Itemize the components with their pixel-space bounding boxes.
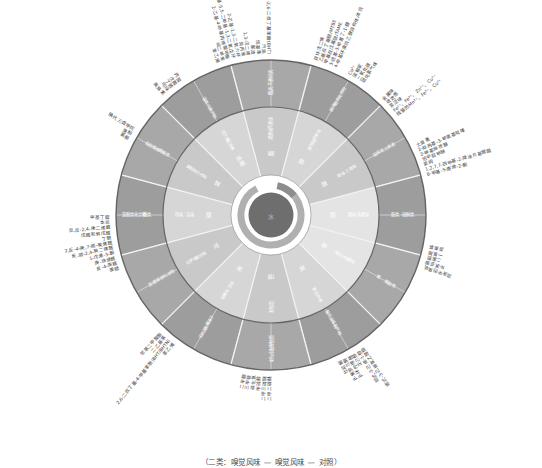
hub-arc-cap (277, 186, 294, 196)
outer-ring-label: 酯类 (267, 86, 274, 95)
external-label-group: 庚醛反-4-庚醛庚-炔烯醛1-戊烯-3-酮反,顺-2,4-癸二烯醛2,反-4-庚… (64, 214, 120, 275)
external-label-group: 土臭素2-异丙基-3-甲氧基吡嗪2-甲基异莰醇倍半萜甲醚莱姆1,2,7,7-四甲… (415, 127, 493, 178)
external-label-group: Cu²⁺溶解氧二氧化碳硫化氢气体 (347, 60, 379, 85)
outer-ring-label: 胺类 (391, 211, 400, 218)
mid-ring-label: 苦味 (186, 211, 195, 218)
flavor-wheel-figure: 酯类芳香烃类醇类醛类化合物萜烯类土臭素胺类硫醇类氯氯胺类氯代消毒副产物臭氧溶解性… (0, 0, 542, 468)
external-label-group: 氯酚溴酚碘代三卤甲烷 (107, 111, 136, 142)
figure-caption: （二类：嗅觉风味 — 嗅觉风味 — 对照） (0, 456, 542, 467)
mid-ring-label: 鱼腥味 (357, 211, 370, 218)
mid-ring-label: 腥味 (348, 211, 357, 218)
external-label-group: 金属味收敛感苦涩味Fe²⁺、Fe³⁺、Zn²⁺、Cu²⁺残留的Mn²⁺、Fe³⁺… (381, 73, 444, 117)
external-label-group: 双环戊二烯乙基叔丁基醚/MTBE甲基叔戊基醚/TAME3-硫基-3-甲基丁-1-… (313, 5, 366, 68)
outer-ring-label: 溶解性气体 (268, 342, 275, 363)
wheel-hub: 水 (241, 186, 301, 245)
outer-ring-label: 氯酚类化合物 (122, 211, 147, 218)
mid-ring-label: 芳香味 (267, 116, 274, 129)
inner-ring-label: 硫 (267, 274, 275, 280)
wheel-svg: 酯类芳香烃类醇类醛类化合物萜烯类土臭素胺类硫醇类氯氯胺类氯代消毒副产物臭氧溶解性… (0, 0, 542, 468)
inner-ring-label: 酮 (330, 212, 336, 219)
external-label-item: 残留的Mn²⁺、Fe³⁺、Cu²⁺ (395, 77, 444, 118)
external-label-group: 二甲二硫醚二甲三硫醚甲硫醇硫化氢三甲胺二甲胺 (238, 373, 273, 401)
mid-ring-label: 果香味 (267, 127, 274, 140)
external-label-group: 苯乙烯间二甲苯2-乙基-4-甲基丙烯酸甲酯2-乙基-5,5-二甲基-1,3-二氧… (210, 0, 273, 64)
hub-center-label: 水 (268, 213, 274, 220)
external-label-group: 游离氯一氯胺二氯胺N-氯亚胺溶液中的臭氧 (422, 243, 453, 279)
mid-ring-label: 药味 (175, 211, 184, 218)
inner-ring-label: 酸 (206, 211, 212, 219)
external-label-group: 苯乙烯2,6-二叔丁基-4-甲基苯酚(BHT/BHTN)二乙基苯邻苯二甲酸酯 (115, 331, 177, 406)
external-label-item: 二甲二硫醚 (266, 376, 273, 401)
inner-ring-label: 酯 (268, 150, 275, 156)
external-label-item: Fe²⁺、Fe³⁺、Zn²⁺、Cu²⁺ (392, 73, 437, 112)
outer-ring-label: 芳香烃类 (267, 69, 274, 86)
external-label-item: 碘代三卤甲烷 (107, 111, 136, 133)
mid-ring-label: 臭氧味 (268, 301, 275, 314)
outer-ring-label: 硫醇类 (402, 211, 415, 218)
